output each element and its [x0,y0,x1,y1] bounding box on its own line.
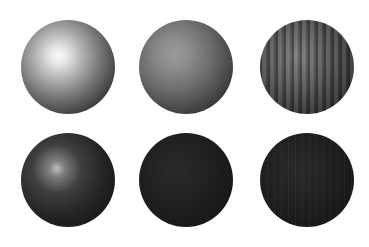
sphere-light-glossy [21,20,115,114]
sphere-dark-glossy [21,133,115,227]
sphere-dark-matte [139,133,233,227]
sphere-dark-textured [260,133,354,227]
sphere-gray-matte [139,20,233,114]
sphere-gray-textured [260,20,354,114]
